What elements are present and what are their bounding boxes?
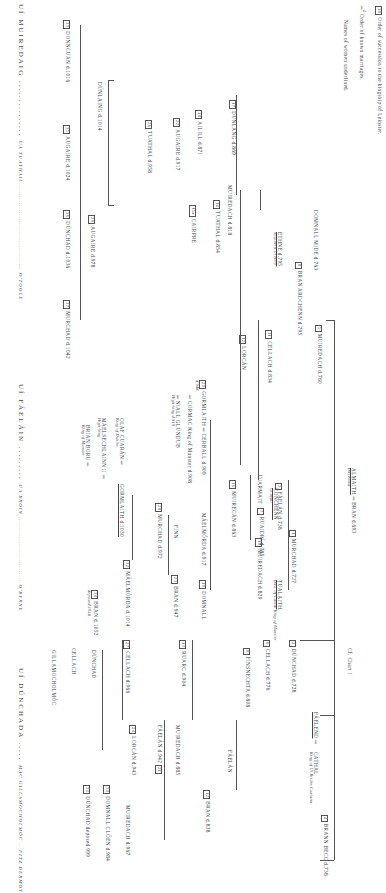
- node: 29AUGAIRE d.978: [88, 215, 95, 268]
- node: 18AILILL d.871: [195, 110, 202, 156]
- legend-succession: 18Order of succession to the kingship of…: [375, 6, 382, 135]
- node: 23BRAN d.947: [171, 575, 178, 618]
- branch-line: [132, 495, 133, 560]
- legend-women: Names of women underlined.: [343, 20, 348, 92]
- branch-line: [260, 190, 261, 210]
- node: 34BRAN d.1052deposed 1018: [87, 590, 98, 636]
- node: 37MURCHAD d.1042: [63, 300, 70, 359]
- node: CATHALKing of Uí Briúin Cualann: [309, 752, 319, 803]
- node: DIARMAIT: [257, 475, 262, 504]
- node: 12BRAN d.838: [203, 790, 210, 833]
- node: 22AUGAIRE d.917: [173, 118, 180, 171]
- node: 32MÁELMÓRDA d.1014: [123, 560, 130, 627]
- branch-line: [164, 720, 165, 840]
- node: FÁELEND ═: [313, 712, 318, 744]
- node: 28MURCHAD d.972: [155, 503, 162, 559]
- branch-line: [192, 640, 193, 720]
- node: OLAF CUARÁN ═King of Dublin: [115, 418, 125, 465]
- node: FINN: [173, 525, 178, 539]
- node: FÁELÁN: [227, 750, 232, 773]
- branch-line: [80, 25, 81, 320]
- legend-marriage: ═4 Order of known marriages.: [359, 6, 366, 80]
- node: 30DOMNALL CLÓEN d.984: [103, 785, 110, 861]
- node: GORMLAITH d.1030: [119, 484, 124, 537]
- node: 10MUIREDACH d.829: [255, 538, 262, 600]
- node: 24LORCÁN d.943: [129, 725, 136, 775]
- branch-line: [108, 205, 114, 206]
- node: 5MUIREDACH d.760: [315, 325, 322, 384]
- node: 17DÚNLANG d.869: [229, 100, 236, 155]
- node: 16MUIRECÁN d.863: [229, 480, 236, 538]
- node: 31DÚNCHAD deposed 999: [83, 785, 90, 857]
- node: FÁELÁN d.942 21: [155, 725, 162, 776]
- node: BRIAN BORU ═King of Munster: [81, 425, 91, 467]
- dynasty-ui-dunchada: UÍ DÚNCHADA ..... MAC GILLAMOCHOLMÓC .. …: [17, 668, 24, 893]
- branch-line: [108, 80, 114, 81]
- chart-reference: Cf. Chart 1: [347, 648, 352, 676]
- dynasty-ui-faelain: UÍ FÁELÁIN ......... UA BROIN ..........…: [17, 384, 24, 612]
- node: 6CELLACH d.776: [263, 640, 270, 691]
- node: 2DÚNCHAD d.728: [289, 640, 296, 693]
- node: ═ NIALL GLÚNDUBHigh-king d.919: [171, 395, 181, 448]
- branch-line: [250, 475, 251, 540]
- node: 36DÚNCHAD d.1036: [63, 210, 70, 268]
- branch-line: [258, 320, 259, 480]
- branch-line: [240, 190, 241, 465]
- node: 9FÍNSNECHTA d.808: [243, 648, 250, 708]
- node: 14TUATHAL d.854: [213, 200, 220, 253]
- node: ETHNE d.795Southern Uí Néill: [273, 232, 283, 266]
- node: 13RUARC d.904: [179, 640, 186, 687]
- node: 20GORMLAITH ═ CERBALL d.909d.948: [195, 380, 206, 475]
- dynasty-ui-muiredaig: UÍ MUIREDAIG ............... UA TUATHAIL…: [17, 4, 24, 300]
- trunk-line: [334, 320, 335, 860]
- branch-line: [108, 80, 109, 205]
- node: DÚNLAING d.1014: [97, 82, 102, 131]
- branch-line: [236, 720, 237, 790]
- node: 12LORCÁN: [239, 335, 246, 370]
- branch-line: [326, 320, 334, 321]
- node: 1MURCHAD d.727: [289, 530, 296, 583]
- node: 3FÁELÁN d.738: [275, 483, 282, 530]
- node: DOMNALL MIDE d.763: [313, 210, 318, 270]
- node: 15aCAIRPRE: [189, 205, 196, 243]
- node: 27CELLACH d.966: [123, 640, 130, 693]
- branch-line: [320, 715, 334, 716]
- node: DÚNCHAD: [91, 650, 96, 679]
- node: MUIREDACH d.818: [227, 185, 232, 235]
- branch-line: [168, 515, 169, 575]
- node: 4BRANN BECC d.738: [321, 815, 328, 876]
- branch-line: [300, 640, 334, 641]
- node: 8BRAN ARDCHENN d.795: [295, 262, 302, 335]
- node: 26TUATHAL d.958: [145, 120, 152, 173]
- node: CELLACH: [71, 648, 76, 675]
- node: 35AUGAIRE d.1024: [63, 125, 70, 181]
- node: MUIREDACH d.885: [175, 725, 180, 775]
- branch-line: [210, 420, 211, 590]
- node: MÁELMÓRDA d.917: [201, 513, 206, 566]
- branch-line: [102, 650, 103, 750]
- node: 33DONNCUAN d.1016: [63, 20, 70, 83]
- node-almaith: ALMAITH ═ BRAN d.693Dál Riata: [347, 468, 357, 534]
- node: GILLAMOCHOLMÓC: [51, 650, 56, 705]
- node: MÁELSECHLAINN II ═High-king: [97, 418, 107, 479]
- node: 11CELLACH d.834: [265, 330, 272, 383]
- node: MUIREDACH d.967: [125, 805, 130, 855]
- node: ═ CORMAC King of Munster d.908: [187, 395, 192, 483]
- node: 19DOMNALL: [199, 580, 206, 620]
- node: TUALAITHDau. of Cathal King of Munster: [273, 580, 283, 641]
